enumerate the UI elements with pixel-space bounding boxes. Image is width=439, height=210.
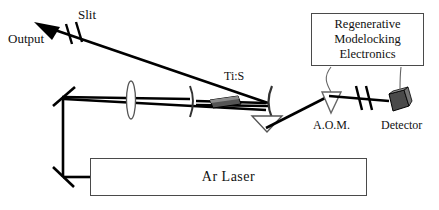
cavity-mirror-right	[269, 86, 273, 118]
focusing-lens	[127, 81, 136, 119]
detector-label: Detector	[381, 119, 422, 131]
cavity-mirror-left	[190, 86, 193, 117]
prism	[252, 116, 282, 132]
ti-sapphire-label: Ti:S	[224, 70, 244, 82]
pump-laser-label: Ar Laser	[202, 169, 255, 185]
electronics-line-1: Regenerative	[335, 17, 401, 32]
electronics-line-3: Electronics	[339, 47, 395, 62]
aom-label: A.O.M.	[313, 119, 350, 131]
pump-laser-box: Ar Laser	[90, 158, 367, 196]
slit-label: Slit	[78, 8, 96, 21]
output-label: Output	[8, 32, 44, 45]
wire-to-aom	[326, 67, 331, 92]
electronics-line-2: Modelocking	[334, 32, 401, 47]
electronics-box: Regenerative Modelocking Electronics	[311, 13, 424, 66]
detector-block	[389, 87, 412, 111]
wire-to-detector	[400, 67, 401, 90]
slit-aperture	[66, 22, 82, 44]
optical-setup-diagram: Output Slit Ti:S A.O.M. Detector Regener…	[0, 0, 439, 210]
